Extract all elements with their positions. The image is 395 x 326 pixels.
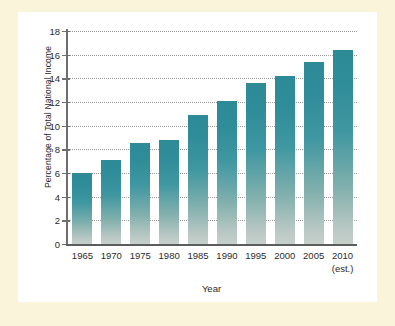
x-tick-label: 1975 xyxy=(130,250,151,261)
bar-chart-figure: Percentage of Total National Income 0246… xyxy=(18,12,377,302)
gridline xyxy=(69,31,357,32)
bar xyxy=(101,160,121,244)
y-tick-label: 12 xyxy=(49,97,60,108)
bar xyxy=(275,76,295,244)
x-tick-label: 1965 xyxy=(72,250,93,261)
bar xyxy=(304,62,324,244)
bar xyxy=(333,50,353,244)
x-tick-sublabel: (est.) xyxy=(332,263,354,274)
y-tick-label: 8 xyxy=(55,144,60,155)
x-tick-label: 1985 xyxy=(187,250,208,261)
bar xyxy=(130,143,150,244)
x-tick-label: 1980 xyxy=(159,250,180,261)
y-tick-label: 0 xyxy=(55,239,60,250)
x-tick-label: 1970 xyxy=(101,250,122,261)
bar xyxy=(246,83,266,244)
plot-area: 024681012141618 xyxy=(66,31,355,244)
x-tick-label: 2005 xyxy=(303,250,324,261)
gridline xyxy=(69,55,357,56)
bar xyxy=(159,140,179,244)
y-tick-label: 2 xyxy=(55,215,60,226)
bar xyxy=(217,101,237,244)
bar xyxy=(72,173,92,244)
y-tick-label: 18 xyxy=(49,26,60,37)
plot-inner: 024681012141618 xyxy=(66,31,355,244)
chart-card: Percentage of Total National Income 0246… xyxy=(18,12,377,302)
x-axis-title: Year xyxy=(66,283,357,294)
y-tick-label: 16 xyxy=(49,49,60,60)
y-tick-label: 10 xyxy=(49,120,60,131)
y-axis-line xyxy=(66,29,68,244)
x-tick-label: 2010 xyxy=(332,250,353,261)
chart-page: Percentage of Total National Income 0246… xyxy=(0,0,395,326)
x-tick-label: 2000 xyxy=(274,250,295,261)
y-tick-label: 14 xyxy=(49,73,60,84)
x-tick-label: 1990 xyxy=(216,250,237,261)
y-tick-label: 4 xyxy=(55,191,60,202)
x-axis-line xyxy=(66,244,357,246)
bar xyxy=(188,115,208,244)
y-tick-label: 6 xyxy=(55,168,60,179)
x-tick-label: 1995 xyxy=(245,250,266,261)
